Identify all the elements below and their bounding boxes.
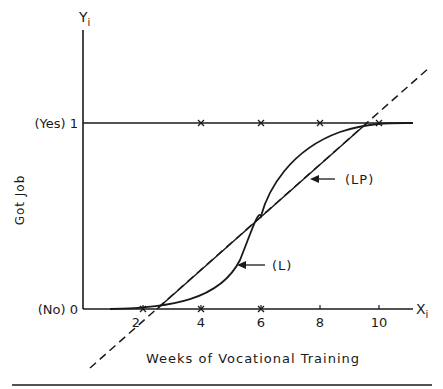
x-axis-label: Weeks of Vocational Training xyxy=(146,351,360,366)
x-axis-symbol: Xi xyxy=(416,301,428,320)
x-tick-6: 6 xyxy=(257,315,265,330)
x-tick-2: 2 xyxy=(132,315,140,330)
l-arrow xyxy=(237,261,265,269)
l-label: (L) xyxy=(272,258,292,273)
x-tick-4: 4 xyxy=(197,315,205,330)
y-tick-yes: (Yes) 1 xyxy=(34,116,78,131)
y-axis-label: Got Job xyxy=(13,175,27,226)
y-axis-symbol: Yi xyxy=(78,9,90,28)
x-tick-10: 10 xyxy=(371,315,388,330)
x-tick-8: 8 xyxy=(316,315,324,330)
diagram: Yi Xi (Yes) 1 (No) 0 2 4 6 8 10 Weeks of… xyxy=(0,0,443,389)
y-tick-no: (No) 0 xyxy=(38,302,78,317)
lp-label: (LP) xyxy=(345,172,374,187)
lp-arrow xyxy=(310,175,335,183)
lp-line xyxy=(157,123,367,309)
logit-curve xyxy=(110,123,413,309)
